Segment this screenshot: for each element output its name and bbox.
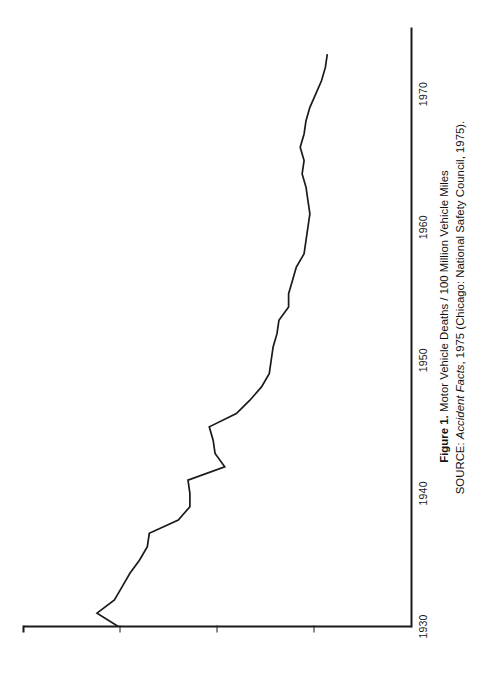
figure-caption: Figure 1. Motor Vehicle Deaths / 100 Mil…	[436, 16, 467, 616]
caption-source-prefix: SOURCE:	[453, 442, 465, 494]
caption-source-rest: , 1975 (Chicago: National Safety Council…	[453, 120, 465, 364]
figure-page: 19301940195019601970 5101520 Figure 1. M…	[0, 0, 501, 676]
caption-figure-number: Figure 1.	[437, 415, 449, 462]
caption-title-text: Motor Vehicle Deaths / 100 Million Vehic…	[437, 170, 449, 412]
series-line-motor-vehicle-death-rate	[97, 54, 327, 626]
caption-title-line: Figure 1. Motor Vehicle Deaths / 100 Mil…	[436, 16, 452, 616]
rotated-figure-group: 19301940195019601970 5101520 Figure 1. M…	[0, 0, 501, 676]
caption-source-line: SOURCE: Accident Facts, 1975 (Chicago: N…	[452, 16, 468, 616]
data-series-svg	[0, 0, 501, 676]
caption-source-title: Accident Facts	[453, 364, 465, 439]
chart-plot-area: 19301940195019601970 5101520	[0, 0, 501, 676]
